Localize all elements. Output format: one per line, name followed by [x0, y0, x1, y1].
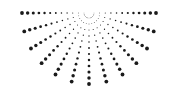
dot [89, 18, 90, 19]
dot [94, 22, 95, 23]
dot [81, 20, 82, 21]
dot-ray [40, 16, 86, 65]
dot [103, 21, 104, 22]
dot [101, 63, 104, 66]
dot [66, 52, 68, 54]
dot [62, 20, 64, 22]
dot [141, 27, 144, 30]
dot [117, 30, 119, 32]
dot [107, 47, 109, 49]
dot [100, 25, 101, 26]
dot [91, 23, 92, 24]
dot [121, 12, 123, 14]
dot [112, 27, 114, 29]
dot [84, 13, 85, 14]
dot [98, 52, 100, 54]
dot [113, 58, 116, 61]
dot [149, 11, 152, 14]
dot [78, 52, 80, 54]
dot [61, 41, 63, 43]
dot [132, 12, 134, 14]
dot [73, 17, 74, 18]
dot-burst-svg [0, 0, 169, 95]
dot [61, 12, 63, 14]
dot [45, 24, 47, 26]
dot [57, 68, 60, 71]
dot [115, 20, 117, 22]
dot [88, 29, 89, 30]
dot [88, 65, 91, 68]
dot [110, 52, 112, 54]
dot [49, 12, 51, 14]
dot [75, 63, 78, 66]
dot [73, 29, 74, 30]
dot [60, 63, 63, 66]
dot [87, 82, 91, 86]
dot [83, 35, 84, 36]
dot [123, 49, 126, 52]
dot [64, 27, 66, 29]
dot-ray [93, 14, 155, 33]
dot [43, 12, 45, 14]
dot [32, 11, 35, 14]
dot [76, 57, 78, 59]
dot-ray [20, 11, 84, 15]
dot [104, 17, 105, 18]
dot [94, 35, 95, 36]
dot-ray [90, 17, 108, 83]
dot [95, 40, 97, 42]
dot-ray [70, 17, 88, 83]
dot [115, 63, 118, 66]
dot [70, 80, 74, 84]
dot [121, 73, 125, 77]
dot [131, 57, 134, 60]
dot [94, 13, 95, 14]
dot-ray [92, 16, 138, 65]
dot [93, 29, 94, 30]
dot [80, 27, 81, 28]
dot [63, 58, 66, 61]
dot [93, 15, 94, 16]
dot [78, 13, 79, 14]
dot [112, 37, 114, 39]
dot [140, 44, 143, 47]
dot [126, 35, 128, 37]
dot [93, 14, 94, 15]
dot [52, 49, 55, 52]
dot [99, 15, 100, 16]
dot-ray [22, 14, 84, 33]
dot [22, 29, 26, 33]
dot [92, 16, 93, 17]
dot [105, 42, 107, 44]
dot [131, 24, 133, 26]
dot [44, 38, 47, 41]
dot [119, 45, 121, 47]
dot [127, 53, 130, 56]
dot [80, 46, 82, 48]
dot [83, 22, 84, 23]
dot [39, 41, 42, 44]
dot [38, 12, 41, 15]
dot [50, 23, 52, 25]
dot [115, 41, 117, 43]
dot [34, 27, 37, 30]
dot [77, 25, 78, 26]
dot [26, 11, 29, 14]
dot [98, 18, 99, 19]
dot [84, 15, 85, 16]
dot [136, 41, 139, 44]
dot [134, 61, 138, 65]
dot [81, 40, 83, 42]
dot [136, 25, 139, 28]
dot [67, 18, 68, 19]
dot [72, 12, 73, 13]
dot [96, 20, 97, 21]
dot [44, 57, 47, 60]
dot [127, 12, 129, 14]
dot [88, 59, 90, 61]
dot [102, 37, 104, 39]
dot [99, 32, 100, 33]
dot [110, 18, 111, 19]
dot [74, 21, 75, 22]
dot [86, 17, 87, 18]
